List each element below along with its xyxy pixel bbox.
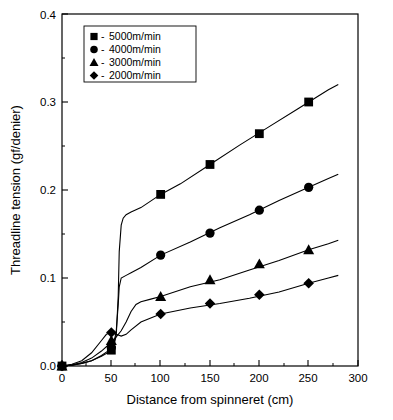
data-point-marker [304, 98, 313, 107]
legend-dash: - [101, 69, 105, 81]
y-tick-label-3: 0.3 [40, 96, 56, 108]
y-tick-label-1: 0.1 [40, 272, 56, 284]
chart-container: 0.0 0.1 0.2 0.3 0.4 0 50 100 150 200 250… [0, 0, 393, 420]
x-tick-label-4: 200 [249, 372, 268, 384]
data-point-marker [206, 160, 215, 169]
y-axis-title: Threadline tension (gf/denier) [8, 105, 23, 275]
legend-label: 5000m/min [109, 30, 161, 42]
legend-dash: - [101, 43, 105, 55]
x-tick-label-6: 300 [348, 372, 367, 384]
x-tick-label-2: 100 [150, 372, 169, 384]
y-tick-label-2: 0.2 [40, 184, 56, 196]
x-tick-label-1: 50 [105, 372, 118, 384]
legend-label: 2000m/min [109, 69, 161, 81]
legend-dash: - [101, 30, 105, 42]
legend-label: 3000m/min [109, 56, 161, 68]
data-point-marker [156, 190, 165, 199]
legend-marker-circle [90, 46, 98, 54]
y-tick-label-0: 0.0 [40, 360, 56, 372]
x-tick-label-3: 150 [200, 372, 219, 384]
x-axis-title: Distance from spinneret (cm) [127, 392, 294, 407]
x-tick-label-5: 250 [298, 372, 317, 384]
tension-vs-distance-chart: 0.0 0.1 0.2 0.3 0.4 0 50 100 150 200 250… [0, 0, 393, 420]
y-tick-label-4: 0.4 [40, 9, 57, 21]
data-point-marker [304, 183, 313, 192]
data-point-marker [255, 129, 264, 138]
legend-marker-square [90, 33, 97, 40]
legend-dash: - [101, 56, 105, 68]
legend-label: 4000m/min [109, 43, 161, 55]
plot-frame [62, 14, 358, 366]
data-point-marker [205, 229, 214, 238]
data-point-marker [156, 251, 165, 260]
data-point-marker [255, 206, 264, 215]
x-tick-label-0: 0 [59, 372, 65, 384]
